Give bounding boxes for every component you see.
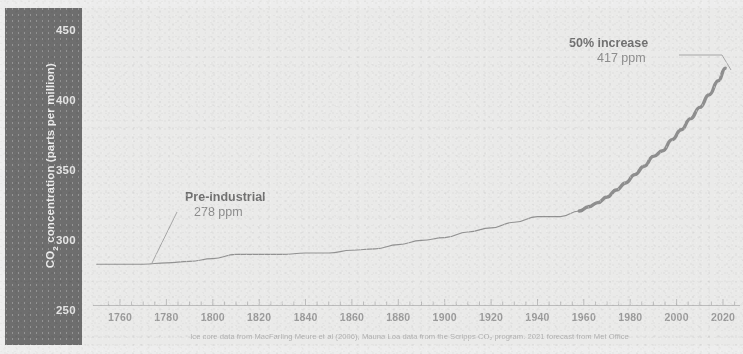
x-tick-1800: 1800 [201,311,225,323]
annotation-current: 50% increase 417 ppm [569,36,648,67]
ice-core-series-line [97,211,579,264]
x-tick-2000: 2000 [665,311,689,323]
annotation-pre-industrial-heading: Pre-industrial [185,190,266,205]
co2-concentration-chart: CO2 concentration (parts per million) 25… [0,0,743,354]
x-tick-1940: 1940 [525,311,549,323]
x-tick-1840: 1840 [293,311,317,323]
annotation-current-value: 417 ppm [569,51,648,66]
annotation-pre-industrial: Pre-industrial 278 ppm [185,190,266,221]
x-tick-1820: 1820 [247,311,271,323]
annotation-current-heading: 50% increase [569,36,648,51]
x-tick-1760: 1760 [108,311,132,323]
x-tick-2020: 2020 [711,311,735,323]
x-axis-tick-marks [108,299,734,306]
leader-line-pre-industrial [152,212,177,263]
annotation-pre-industrial-value: 278 ppm [185,205,266,220]
chart-source-caption: Ice core data from MacFarling Meure et a… [82,332,737,341]
x-tick-1960: 1960 [572,311,596,323]
x-tick-1920: 1920 [479,311,503,323]
mauna-loa-series-line [579,68,725,211]
x-tick-1980: 1980 [618,311,642,323]
x-tick-1880: 1880 [386,311,410,323]
x-tick-1860: 1860 [340,311,364,323]
x-tick-1900: 1900 [433,311,457,323]
x-tick-1780: 1780 [154,311,178,323]
